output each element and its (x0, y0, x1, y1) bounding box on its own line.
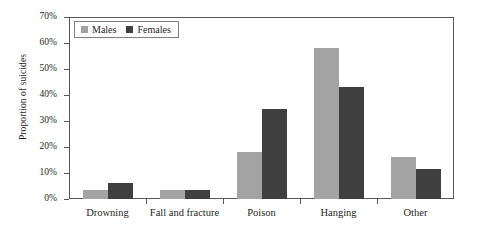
bar-males-fall-and-fracture (160, 190, 185, 199)
y-axis-tick-label: 70% (11, 11, 57, 21)
x-axis-tick-label: Other (346, 207, 478, 218)
y-axis-tick-label: 50% (11, 63, 57, 73)
y-axis-tick (64, 147, 69, 148)
legend-label-females: Females (137, 24, 170, 35)
y-axis-tick (64, 17, 69, 18)
x-axis-tick (300, 199, 301, 204)
bar-females-hanging (339, 87, 364, 199)
chart-legend: Males Females (74, 21, 179, 38)
y-axis-tick (64, 121, 69, 122)
legend-item-males: Males (81, 24, 116, 35)
bar-females-other (416, 169, 441, 199)
legend-item-females: Females (126, 24, 170, 35)
bar-females-poison (262, 109, 287, 199)
y-axis-tick (64, 43, 69, 44)
x-axis-tick (377, 199, 378, 204)
bar-males-poison (237, 152, 262, 199)
bar-males-other (391, 157, 416, 199)
y-axis-tick (64, 69, 69, 70)
x-axis-tick (146, 199, 147, 204)
bar-males-drowning (83, 190, 108, 199)
bar-females-fall-and-fracture (185, 190, 210, 199)
y-axis-tick-label: 0% (11, 193, 57, 203)
x-axis-tick (223, 199, 224, 204)
y-axis-tick-label: 40% (11, 89, 57, 99)
bar-chart: Proportion of suicides 0%10%20%30%40%50%… (0, 0, 478, 242)
legend-swatch-males-icon (81, 26, 88, 33)
y-axis-tick (64, 95, 69, 96)
y-axis-tick-label: 20% (11, 141, 57, 151)
plot-top-rule (69, 17, 454, 18)
plot-right-rule (453, 17, 454, 199)
y-axis-tick-label: 60% (11, 37, 57, 47)
bar-females-drowning (108, 183, 133, 199)
y-axis-tick (64, 199, 69, 200)
y-axis-tick-label: 30% (11, 115, 57, 125)
y-axis-tick (64, 173, 69, 174)
legend-label-males: Males (92, 24, 116, 35)
legend-swatch-females-icon (126, 26, 133, 33)
y-axis-tick-label: 10% (11, 167, 57, 177)
bar-males-hanging (314, 48, 339, 199)
